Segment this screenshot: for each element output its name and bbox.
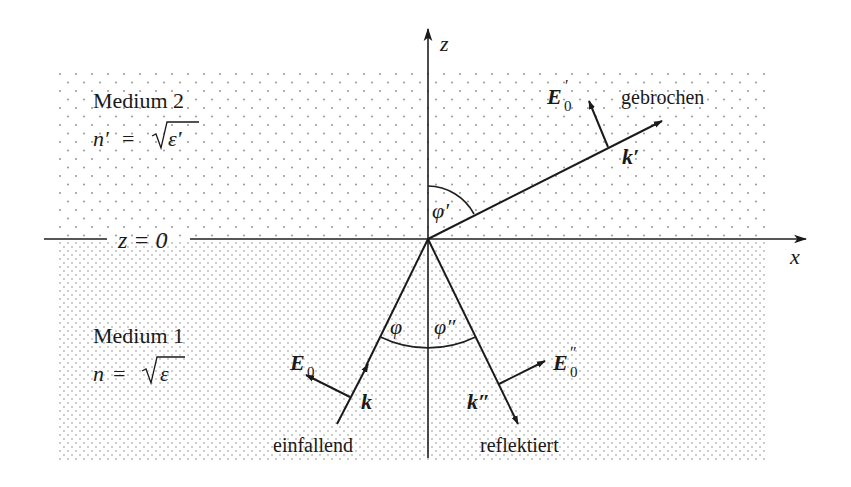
svg-text:′: ′	[565, 77, 569, 94]
incident-ray-label: einfallend	[273, 434, 353, 456]
z-axis-label: z	[439, 31, 449, 56]
svg-text:0: 0	[307, 364, 315, 380]
incident-angle-label: φ	[390, 314, 402, 339]
svg-text:=: =	[122, 126, 134, 151]
medium-1-region	[58, 241, 766, 462]
svg-text:″: ″	[570, 344, 577, 361]
svg-text:ε′: ε′	[168, 126, 183, 151]
svg-text:=: =	[113, 361, 125, 386]
svg-text:E: E	[546, 84, 562, 109]
medium-2-name: Medium 2	[93, 88, 184, 113]
refracted-ray-label: gebrochen	[621, 86, 704, 109]
reflected-ray-label: reflektiert	[480, 434, 559, 456]
incident-k-label: k	[361, 389, 372, 414]
reflected-k-label: k″	[467, 389, 490, 414]
reflection-refraction-diagram: z = 0 z x Medium 2 n′ = ε′ Medium 1 n = …	[0, 0, 851, 487]
refracted-k-label: k′	[622, 144, 639, 169]
medium-1-name: Medium 1	[93, 323, 184, 348]
reflected-angle-label: φ″	[434, 314, 456, 339]
interface-label: z = 0	[117, 227, 168, 253]
svg-text:0: 0	[570, 364, 578, 380]
refracted-angle-label: φ′	[432, 198, 450, 223]
svg-text:ε: ε	[160, 361, 169, 386]
x-axis-label: x	[789, 244, 800, 269]
svg-text:n′: n′	[93, 126, 110, 151]
svg-text:E: E	[289, 350, 305, 375]
svg-text:E: E	[552, 350, 568, 375]
svg-text:0: 0	[564, 98, 572, 114]
svg-text:n: n	[93, 361, 104, 386]
